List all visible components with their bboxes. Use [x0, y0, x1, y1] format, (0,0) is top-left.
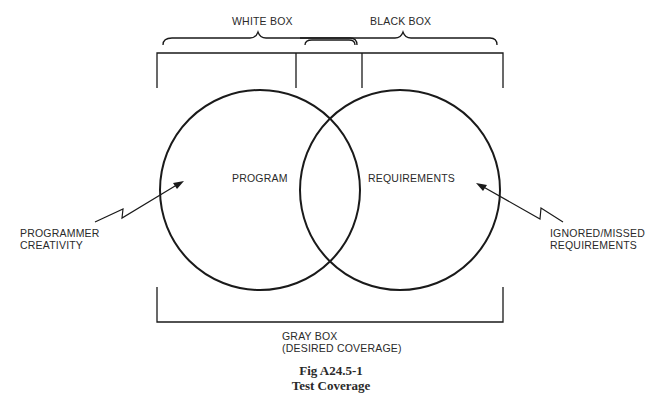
overlap-brace: [305, 40, 355, 45]
missed-requirements-line1: IGNORED/MISSED: [550, 227, 645, 239]
black-box-label: BLACK BOX: [370, 15, 431, 27]
test-coverage-diagram: WHITE BOX BLACK BOX PROGRAM REQUIREMENTS…: [0, 0, 663, 404]
requirements-label: REQUIREMENTS: [368, 172, 455, 184]
programmer-creativity-line1: PROGRAMMER: [20, 227, 100, 239]
requirements-circle: [300, 90, 500, 290]
missed-requirements-line2: REQUIREMENTS: [550, 239, 645, 251]
figure-caption: Fig A24.5-1 Test Coverage: [231, 363, 431, 393]
top-bracket: [157, 53, 503, 88]
missed-requirements-arrow: [480, 185, 563, 222]
left-arrowhead-icon: [173, 181, 184, 189]
program-label: PROGRAM: [232, 172, 288, 184]
white-box-label: WHITE BOX: [232, 15, 293, 27]
missed-requirements-label: IGNORED/MISSED REQUIREMENTS: [550, 227, 645, 251]
programmer-creativity-arrow: [95, 183, 180, 222]
bottom-bracket: [157, 287, 503, 322]
right-arrowhead-icon: [476, 183, 487, 191]
gray-box-label: GRAY BOX (DESIRED COVERAGE): [282, 330, 402, 354]
gray-box-line2: (DESIRED COVERAGE): [282, 342, 402, 354]
figure-title: Test Coverage: [231, 378, 431, 393]
programmer-creativity-line2: CREATIVITY: [20, 239, 100, 251]
program-circle: [160, 90, 360, 290]
black-box-brace: [300, 32, 497, 45]
gray-box-line1: GRAY BOX: [282, 330, 402, 342]
programmer-creativity-label: PROGRAMMER CREATIVITY: [20, 227, 100, 251]
figure-number: Fig A24.5-1: [231, 363, 431, 378]
